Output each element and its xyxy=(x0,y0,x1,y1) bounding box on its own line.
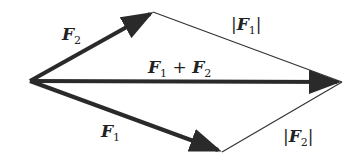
vector-f1-arrow xyxy=(30,81,218,150)
side-abs-f2 xyxy=(222,82,342,152)
vector-f2-arrow xyxy=(30,14,150,81)
vector-sum-arrow xyxy=(30,81,337,82)
vector-diagram: F2 F1 + F2 |F1| F1 |F2| xyxy=(0,0,364,167)
label-abs-f2: |F2| xyxy=(283,126,314,149)
label-f2: F2 xyxy=(61,24,81,47)
label-abs-f1: |F1| xyxy=(231,14,262,37)
label-f1: F1 xyxy=(100,121,120,144)
label-sum: F1 + F2 xyxy=(147,57,211,80)
